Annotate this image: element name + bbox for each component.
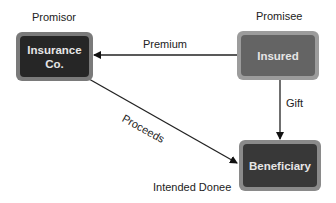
gift-edge-label: Gift: [286, 97, 303, 109]
insured-label: Insured: [257, 49, 299, 63]
insured-node[interactable]: Insured: [237, 31, 319, 80]
intended-donee-label: Intended Donee: [153, 181, 231, 193]
insurance-co-node[interactable]: Insurance Co.: [16, 32, 93, 81]
promisor-label: Promisor: [32, 11, 76, 23]
premium-edge-label: Premium: [143, 38, 187, 50]
insurance-co-label-line1: Insurance: [27, 43, 81, 57]
beneficiary-label: Beneficiary: [249, 159, 311, 173]
proceeds-arrow: [89, 79, 237, 163]
insurance-co-label-line2: Co.: [27, 57, 81, 71]
promisee-label: Promisee: [256, 10, 302, 22]
beneficiary-node[interactable]: Beneficiary: [239, 140, 321, 191]
